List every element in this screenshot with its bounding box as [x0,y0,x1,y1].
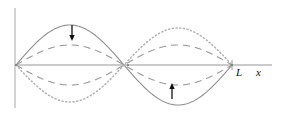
end-node [231,64,233,66]
length-label-L: L [235,66,242,78]
down-arrow-left-antinode-head [69,35,74,41]
middle-node [127,64,129,66]
origin-node [15,64,17,66]
x-axis-label: x [255,66,261,78]
figure-canvas: L x [0,0,281,117]
up-arrow-right-antinode-head [169,83,174,89]
standing-wave-figure: L x [0,0,281,117]
down-arrow-left-antinode [69,25,74,41]
